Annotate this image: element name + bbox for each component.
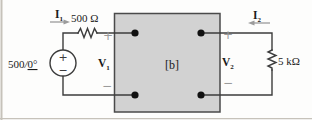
v1-subscript: 1 <box>106 64 110 72</box>
network-box-label: [b] <box>165 58 179 72</box>
wire-source-top <box>63 33 78 50</box>
port1-plus-sign: + <box>103 29 113 43</box>
current-i1-arrow-head <box>64 19 71 24</box>
source-angle: 0° <box>28 58 38 70</box>
circuit-canvas: + − 500/0° I1 500 Ω + V1 − [b] + V2 − I2… <box>0 0 312 120</box>
voltage-v1-label: V1 <box>98 57 110 72</box>
i1-subscript: 1 <box>59 15 63 23</box>
current-i2-arrow-head <box>248 20 255 25</box>
terminal-dot-port2-top <box>197 29 204 36</box>
resistor-500ohm-zigzag <box>78 29 97 38</box>
resistor-5kohm-zigzag <box>268 50 276 70</box>
circuit-figure: + − 500/0° I1 500 Ω + V1 − [b] + V2 − I2… <box>0 0 312 120</box>
port2-plus-sign: + <box>223 28 233 42</box>
source-minus-sign: − <box>58 64 67 77</box>
source-plus-sign: + <box>58 51 67 64</box>
resistor-5kohm-label: 5 kΩ <box>278 55 300 67</box>
terminal-dot-port1-bottom <box>131 91 138 98</box>
port1-minus-sign: − <box>102 79 112 93</box>
source-magnitude: 500 <box>8 58 25 70</box>
terminal-dot-port2-bottom <box>197 91 204 98</box>
v2-subscript: 2 <box>230 63 234 71</box>
i2-subscript: 2 <box>257 16 261 24</box>
resistor-500ohm-label: 500 Ω <box>71 12 98 24</box>
port2-minus-sign: − <box>223 76 233 90</box>
source-value-label: 500/0° <box>8 58 37 70</box>
voltage-v2-label: V2 <box>222 56 234 71</box>
terminal-dot-port1-top <box>131 29 138 36</box>
current-i1-label: I1 <box>55 8 63 23</box>
